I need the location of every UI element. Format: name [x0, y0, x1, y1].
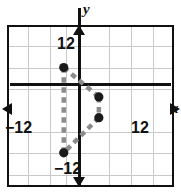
gridline-horizontal: [9, 153, 172, 154]
x-axis: [10, 83, 171, 86]
x-axis-label: x: [171, 101, 179, 116]
plot-frame: [7, 25, 174, 187]
gridline-vertical: [50, 27, 51, 185]
y-tick-label-negative: −12: [54, 161, 81, 177]
y-axis-arrow-up: [73, 25, 85, 35]
gridline-horizontal: [9, 68, 172, 69]
gridline-vertical: [28, 27, 29, 185]
graph-screenshot: y x 12 −12 −12 12: [0, 0, 181, 193]
y-tick-label-positive: 12: [57, 36, 75, 52]
gridline-horizontal: [9, 175, 172, 176]
gridline-horizontal: [9, 89, 172, 90]
gridline-horizontal: [9, 46, 172, 47]
x-axis-arrow-left: [2, 103, 12, 115]
y-axis-arrow-down: [73, 177, 85, 187]
x-tick-label-positive: 12: [131, 120, 149, 136]
gridline-vertical: [153, 27, 154, 185]
gridline-vertical: [109, 27, 110, 185]
x-tick-label-negative: −12: [5, 120, 32, 136]
y-axis-label: y: [83, 2, 90, 17]
gridline-vertical: [131, 27, 132, 185]
